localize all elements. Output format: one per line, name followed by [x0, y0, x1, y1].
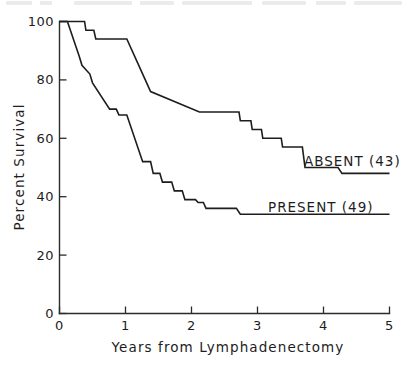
- xtick-label-5: 5: [385, 318, 394, 333]
- x-axis-ticks: [60, 307, 390, 314]
- xtick-label-3: 3: [253, 318, 262, 333]
- curve-absent: [60, 22, 390, 174]
- xtick-label-0: 0: [55, 318, 64, 333]
- xtick-label-1: 1: [121, 318, 130, 333]
- xtick-label-4: 4: [319, 318, 328, 333]
- x-axis-title: Years from Lymphadenectomy: [111, 339, 345, 355]
- ytick-label-100: 100: [28, 14, 54, 29]
- xtick-label-2: 2: [187, 318, 196, 333]
- series-label-present: PRESENT (49): [268, 199, 374, 215]
- ytick-label-0: 0: [45, 306, 54, 321]
- x-tick-labels: 0 1 2 3 4 5: [55, 318, 394, 333]
- curve-present: [60, 22, 390, 215]
- survival-chart-figure: 100 80 60 40 20 0 0 1 2 3 4 5 Percent Su…: [0, 0, 411, 369]
- ytick-label-80: 80: [36, 72, 54, 87]
- plot-area: 100 80 60 40 20 0 0 1 2 3 4 5 Percent Su…: [0, 0, 411, 369]
- ytick-label-60: 60: [36, 131, 54, 146]
- y-axis-ticks: [60, 22, 67, 314]
- y-axis-title: Percent Survival: [11, 103, 27, 230]
- ytick-label-40: 40: [36, 189, 54, 204]
- ytick-label-20: 20: [36, 248, 54, 263]
- series-group: [60, 22, 390, 215]
- y-tick-labels: 100 80 60 40 20 0: [28, 14, 54, 321]
- series-label-absent: ABSENT (43): [304, 153, 401, 169]
